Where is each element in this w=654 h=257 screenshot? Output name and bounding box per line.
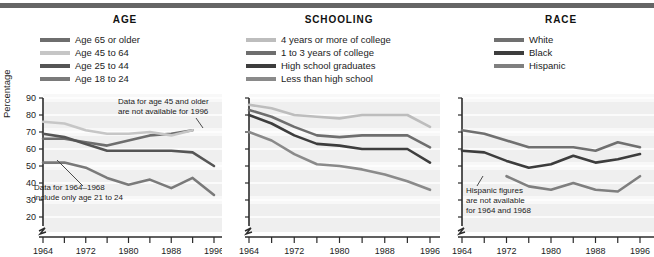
svg-text:Hispanic figures: Hispanic figures	[466, 186, 523, 195]
svg-text:1972: 1972	[496, 246, 516, 256]
svg-text:1972: 1972	[284, 246, 304, 256]
panel-age: AGE Age 65 or older Age 45 to 64 Age 25 …	[0, 0, 222, 257]
svg-text:are not available for 1996: are not available for 1996	[118, 107, 209, 116]
svg-text:20: 20	[26, 212, 36, 222]
svg-text:1996: 1996	[630, 246, 650, 256]
panel-race: RACE White Black Hispanic 19641972198019…	[440, 0, 654, 257]
svg-text:1980: 1980	[118, 246, 138, 256]
plot-area-age: 203040506070809019641972198019881996Data…	[0, 0, 222, 257]
svg-text:1964: 1964	[33, 246, 53, 256]
svg-text:are not available: are not available	[466, 196, 525, 205]
svg-text:1988: 1988	[375, 246, 395, 256]
plot-area-race: 19641972198019881996Hispanic figuresare …	[440, 0, 654, 257]
svg-text:60: 60	[26, 144, 36, 154]
svg-text:1988: 1988	[161, 246, 181, 256]
svg-text:70: 70	[26, 127, 36, 137]
svg-text:1988: 1988	[585, 246, 605, 256]
svg-text:1972: 1972	[76, 246, 96, 256]
svg-text:for 1964 and 1968: for 1964 and 1968	[466, 206, 531, 215]
plot-area-schooling: 19641972198019881996	[222, 0, 440, 257]
svg-text:90: 90	[26, 93, 36, 103]
svg-text:Data for 1964–1968: Data for 1964–1968	[34, 183, 105, 192]
svg-text:Data for age 45 and older: Data for age 45 and older	[118, 97, 209, 106]
svg-text:1964: 1964	[452, 246, 472, 256]
svg-text:1980: 1980	[329, 246, 349, 256]
svg-text:50: 50	[26, 161, 36, 171]
panel-schooling: SCHOOLING 4 years or more of college 1 t…	[222, 0, 440, 257]
svg-text:80: 80	[26, 110, 36, 120]
svg-text:include only age 21 to 24: include only age 21 to 24	[34, 193, 124, 202]
svg-text:1996: 1996	[420, 246, 440, 256]
svg-text:1996: 1996	[204, 246, 222, 256]
svg-text:1980: 1980	[541, 246, 561, 256]
svg-text:1964: 1964	[239, 246, 259, 256]
